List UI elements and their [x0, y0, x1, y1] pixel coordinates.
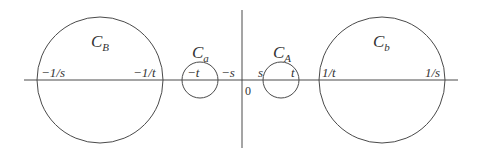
label-c-small-b: Cb [373, 32, 390, 53]
point-neg-t: −t [187, 65, 200, 80]
point-s: s [258, 65, 263, 80]
label-c-big-b: CB [91, 32, 109, 53]
point-neg-s: −s [221, 65, 235, 80]
label-c-small-a: Ca [192, 43, 209, 64]
point-neg-inv-t: −1/t [133, 65, 156, 80]
point-inv-s: 1/s [425, 65, 440, 80]
point-neg-inv-s: −1/s [41, 65, 65, 80]
point-t: t [291, 65, 295, 80]
point-inv-t: 1/t [322, 65, 336, 80]
diagram-svg: CB Ca CA Cb −1/s −1/t −t −s s t 1/t 1/s … [0, 0, 480, 159]
mobius-circles-diagram: CB Ca CA Cb −1/s −1/t −t −s s t 1/t 1/s … [0, 0, 480, 159]
origin-label: 0 [245, 84, 251, 98]
label-c-big-a: CA [273, 43, 291, 64]
